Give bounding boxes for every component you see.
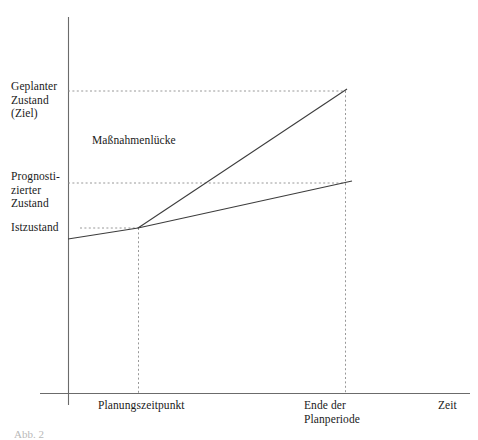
series-line-prognoseverlauf [138,181,352,228]
x-tick-label-ende-der-planperiode: Ende der Planperiode [304,399,414,426]
annotation-massnahmenluecke: Maßnahmenlücke [92,134,222,148]
figure-container: Geplanter Zustand (Ziel) Prognosti- zier… [0,0,478,440]
y-tick-label-prognostizierter-zustand: Prognosti- zierter Zustand [11,170,89,211]
chart-canvas [0,0,478,440]
x-tick-label-planungszeitpunkt: Planungszeitpunkt [98,399,238,413]
x-axis-title: Zeit [438,399,478,413]
series-line-planverlauf [138,89,347,228]
figure-caption: Abb. 2 [14,428,134,440]
y-tick-label-istzustand: Istzustand [11,221,89,235]
y-tick-label-geplanter-zustand: Geplanter Zustand (Ziel) [11,80,89,121]
